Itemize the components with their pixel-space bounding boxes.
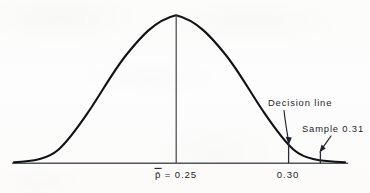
- decision-tick-label: 0.30: [277, 169, 299, 180]
- mean-tick-label: p̄ = 0.25: [155, 169, 197, 180]
- normal-curve-figure: Decision line Sample 0.31 p̄ = 0.25 0.30: [0, 0, 370, 193]
- sample-label: Sample 0.31: [302, 123, 364, 134]
- normal-curve: [14, 15, 345, 162]
- decision-line-label: Decision line: [268, 97, 332, 108]
- plot-canvas: Decision line Sample 0.31 p̄ = 0.25 0.30: [0, 0, 370, 193]
